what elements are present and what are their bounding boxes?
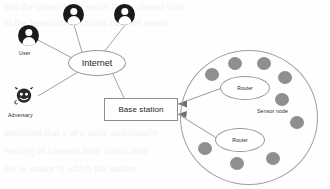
sensor-node[interactable] <box>228 57 242 70</box>
internet-label: Internet <box>82 58 113 68</box>
sensor-node[interactable] <box>257 57 271 70</box>
sensor-node[interactable] <box>198 142 212 155</box>
user-body-shape <box>67 16 80 25</box>
internet-node[interactable]: Internet <box>68 50 126 76</box>
user-body-shape <box>22 37 35 46</box>
router-node-bottom[interactable]: Router <box>215 128 265 152</box>
base-station-label: Base station <box>118 105 163 114</box>
sensor-node-legend-label: Sensor node <box>257 108 288 114</box>
sensor-node[interactable] <box>290 116 304 129</box>
user-icon <box>18 25 39 46</box>
router-node-top[interactable]: Router <box>220 76 270 100</box>
user-body-shape <box>118 16 131 25</box>
sensor-node[interactable] <box>205 68 219 81</box>
sensor-node[interactable] <box>230 157 244 170</box>
sensor-node[interactable] <box>275 93 289 106</box>
user-head-shape <box>121 8 128 15</box>
user-head-shape <box>25 29 32 36</box>
user-icon <box>63 4 84 25</box>
adversary-label: Adversary <box>8 112 33 118</box>
router-label: Router <box>237 85 253 91</box>
base-station-node[interactable]: Base station <box>104 98 178 121</box>
sensor-node[interactable] <box>266 152 280 165</box>
devil-icon <box>13 86 35 106</box>
diagram-canvas: and the network the secret key is shared… <box>0 0 330 189</box>
router-label: Router <box>232 137 248 143</box>
user-icon <box>114 4 135 25</box>
user-label: User <box>19 50 31 56</box>
user-head-shape <box>70 8 77 15</box>
sensor-node[interactable] <box>278 71 292 84</box>
